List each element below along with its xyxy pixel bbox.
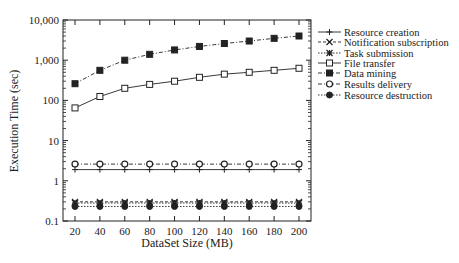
series-data-mining [72, 33, 302, 87]
y-tick-label: 0.1 [45, 215, 59, 227]
line-chart: 0.11101001,00010,00020406080100120140160… [0, 0, 459, 263]
legend-label: Notification subscription [344, 37, 449, 48]
legend-item: Notification subscription [318, 37, 449, 48]
legend-label: Resource destruction [344, 90, 433, 101]
square-open-marker-icon [296, 65, 302, 71]
square-open-marker-icon [271, 67, 277, 73]
series-file-transfer [72, 65, 302, 111]
square-filled-marker-icon [296, 33, 302, 39]
square-open-marker-icon [221, 71, 227, 77]
circle-open-marker-icon [221, 161, 227, 167]
square-filled-marker-icon [122, 57, 128, 63]
circle-open-marker-icon [271, 161, 277, 167]
x-tick-label: 200 [291, 225, 308, 237]
series-layer [72, 33, 302, 209]
circle-open-marker-icon [246, 161, 252, 167]
square-filled-marker-icon [196, 43, 202, 49]
square-filled-marker-icon [221, 41, 227, 47]
circle-open-marker-icon [196, 161, 202, 167]
x-tick-label: 20 [70, 225, 82, 237]
circle-open-marker-icon [72, 161, 78, 167]
plot-frame [63, 20, 311, 221]
circle-filled-marker-icon [147, 203, 153, 209]
series-task-submission [72, 200, 302, 206]
legend-label: Data mining [344, 68, 397, 79]
circle-filled-marker-icon [172, 203, 178, 209]
axes: 0.11101001,00010,00020406080100120140160… [29, 14, 311, 237]
circle-filled-legend-icon [327, 92, 333, 98]
legend-label: Results delivery [344, 79, 413, 90]
square-filled-legend-icon [327, 70, 333, 76]
x-tick-label: 40 [94, 225, 106, 237]
square-filled-marker-icon [97, 67, 103, 73]
circle-filled-marker-icon [196, 203, 202, 209]
circle-open-marker-icon [97, 161, 103, 167]
legend-item: Data mining [318, 68, 397, 79]
square-open-marker-icon [172, 78, 178, 84]
square-open-marker-icon [72, 105, 78, 111]
square-filled-marker-icon [246, 38, 252, 44]
circle-open-marker-icon [296, 161, 302, 167]
x-tick-label: 60 [119, 225, 131, 237]
square-open-marker-icon [147, 81, 153, 87]
series-resource-destruction [72, 203, 302, 209]
square-filled-marker-icon [271, 35, 277, 41]
circle-open-marker-icon [122, 161, 128, 167]
x-tick-label: 180 [266, 225, 283, 237]
circle-filled-marker-icon [97, 203, 103, 209]
square-filled-marker-icon [147, 51, 153, 57]
circle-filled-marker-icon [246, 203, 252, 209]
circle-open-marker-icon [172, 161, 178, 167]
circle-filled-marker-icon [122, 203, 128, 209]
circle-filled-marker-icon [271, 203, 277, 209]
y-tick-label: 10 [48, 135, 60, 147]
square-open-marker-icon [246, 69, 252, 75]
series-line [75, 68, 299, 108]
legend-item: Results delivery [318, 79, 413, 90]
y-tick-label: 10,000 [29, 14, 60, 26]
series-results-delivery [72, 161, 302, 167]
square-open-legend-icon [327, 60, 333, 66]
circle-filled-marker-icon [296, 203, 302, 209]
series-notification-subscription [72, 199, 302, 205]
square-open-marker-icon [122, 85, 128, 91]
x-axis-title: DataSet Size (MB) [141, 236, 232, 250]
y-tick-label: 1,000 [34, 54, 59, 66]
square-filled-marker-icon [172, 47, 178, 53]
legend-item: Resource destruction [318, 90, 433, 101]
x-tick-label: 160 [241, 225, 258, 237]
y-tick-label: 100 [43, 94, 60, 106]
square-filled-marker-icon [72, 81, 78, 87]
circle-filled-marker-icon [72, 203, 78, 209]
series-resource-creation [72, 167, 302, 173]
y-tick-label: 1 [54, 175, 60, 187]
circle-open-marker-icon [147, 161, 153, 167]
square-open-marker-icon [196, 74, 202, 80]
y-axis-title: Execution Time (sec) [7, 70, 21, 173]
square-open-marker-icon [97, 94, 103, 100]
series-line [75, 36, 299, 84]
circle-open-legend-icon [327, 81, 333, 87]
circle-filled-marker-icon [221, 203, 227, 209]
legend: Resource creationNotification subscripti… [318, 27, 449, 101]
